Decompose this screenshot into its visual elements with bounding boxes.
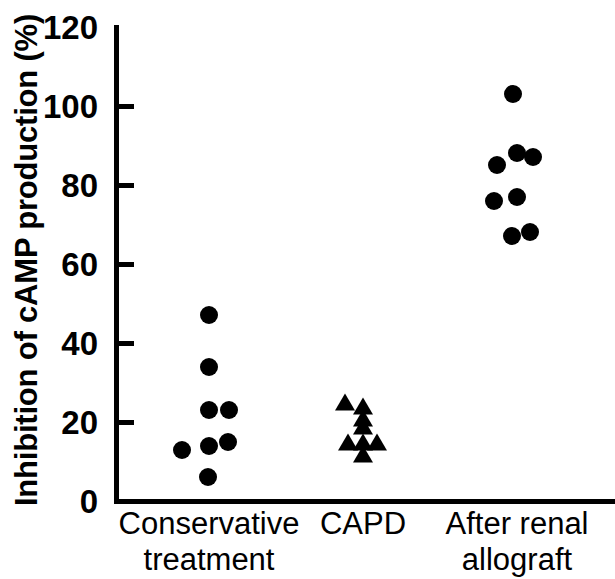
y-tick-mark <box>119 420 134 425</box>
data-point-triangle <box>335 394 355 411</box>
data-point-circle <box>503 227 521 245</box>
y-tick-mark <box>119 104 134 109</box>
y-tick-label: 120 <box>40 11 108 44</box>
data-point-circle <box>220 401 238 419</box>
x-category-line-2: allograft <box>445 542 588 578</box>
data-point-circle <box>200 306 218 324</box>
y-tick-label: 0 <box>40 485 108 518</box>
x-category-line-1: CAPD <box>320 506 406 541</box>
y-tick-mark <box>119 262 134 267</box>
y-tick-mark <box>119 341 134 346</box>
data-point-circle <box>200 437 218 455</box>
data-point-circle <box>485 192 503 210</box>
data-point-circle <box>524 148 542 166</box>
x-category-line-2: treatment <box>119 542 300 578</box>
data-point-circle <box>488 156 506 174</box>
data-point-triangle <box>353 417 373 434</box>
data-point-circle <box>508 144 526 162</box>
y-tick-label: 40 <box>40 327 108 360</box>
data-point-circle <box>219 433 237 451</box>
y-axis-tick-labels: 120100806040200 <box>40 0 108 579</box>
x-axis-category-labels: ConservativetreatmentCAPDAfter renalallo… <box>114 506 615 579</box>
data-point-circle <box>504 85 522 103</box>
data-point-circle <box>173 441 191 459</box>
data-point-circle <box>200 401 218 419</box>
y-tick-label: 20 <box>40 406 108 439</box>
x-axis-category-label: After renalallograft <box>445 506 588 578</box>
x-axis-category-label: CAPD <box>320 506 406 542</box>
y-tick-mark <box>119 183 134 188</box>
y-tick-label: 80 <box>40 169 108 202</box>
x-category-line-1: After renal <box>445 506 588 541</box>
data-point-circle <box>200 358 218 376</box>
data-point-circle <box>199 468 217 486</box>
data-point-triangle <box>353 445 373 462</box>
x-category-line-1: Conservative <box>119 506 300 541</box>
x-axis-line <box>114 499 615 504</box>
data-point-circle <box>521 223 539 241</box>
scatter-plot-figure: Inhibition of cAMP production (%) 120100… <box>0 0 615 579</box>
x-axis-category-label: Conservativetreatment <box>119 506 300 578</box>
data-point-circle <box>508 188 526 206</box>
y-tick-label: 100 <box>40 90 108 123</box>
y-tick-label: 60 <box>40 248 108 281</box>
